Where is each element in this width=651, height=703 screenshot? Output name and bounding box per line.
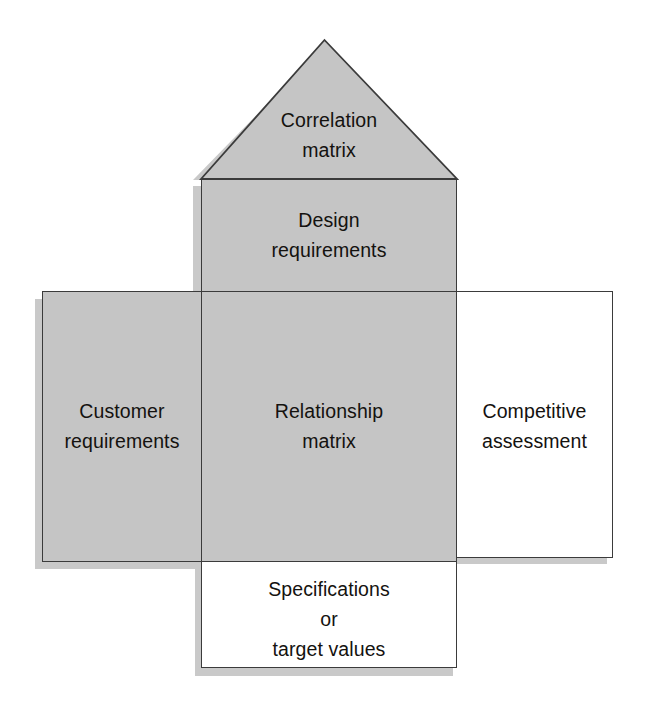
correlation-matrix-room[interactable]	[199, 38, 459, 181]
relationship-matrix-room[interactable]	[201, 291, 457, 562]
competitive-assessment-room[interactable]	[456, 291, 613, 558]
customer-requirements-room[interactable]	[42, 291, 202, 562]
design-requirements-room[interactable]	[201, 179, 457, 292]
house-of-quality-diagram: Correlation matrix Design requirements C…	[0, 0, 651, 703]
specifications-room[interactable]	[201, 561, 457, 668]
